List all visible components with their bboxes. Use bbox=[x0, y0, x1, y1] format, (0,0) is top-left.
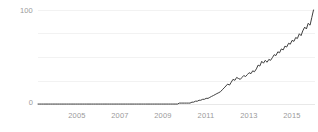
y-tick-label-0: 0 bbox=[29, 99, 33, 107]
x-tick-label-2007: 2007 bbox=[111, 112, 129, 120]
y-axis-ticks: 100 0 bbox=[0, 10, 33, 105]
chart-container: Interest Over Time 100 0 2005 2007 2009 … bbox=[0, 0, 318, 132]
x-tick-label-2011: 2011 bbox=[198, 112, 215, 120]
plot-area bbox=[38, 10, 315, 105]
series-interest-over-time bbox=[38, 10, 315, 105]
x-tick-label-2013: 2013 bbox=[240, 112, 258, 120]
x-tick-label-2005: 2005 bbox=[68, 112, 86, 120]
x-tick-label-2015: 2015 bbox=[283, 112, 301, 120]
y-tick-label-100: 100 bbox=[20, 7, 33, 15]
x-tick-label-2009: 2009 bbox=[154, 112, 172, 120]
